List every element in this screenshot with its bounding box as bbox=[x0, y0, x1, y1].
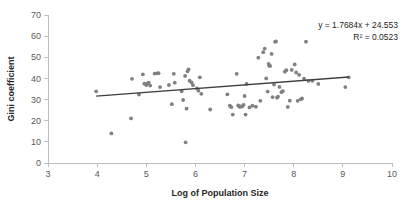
data-point bbox=[172, 72, 176, 76]
data-point bbox=[304, 40, 308, 44]
chart-canvas: 010203040506070 345678910 y = 1.7684x + … bbox=[0, 0, 410, 209]
data-point bbox=[170, 102, 174, 106]
data-point bbox=[191, 83, 195, 87]
data-point bbox=[290, 68, 294, 72]
x-tick-label: 9 bbox=[340, 169, 345, 179]
data-point bbox=[94, 89, 98, 93]
data-point bbox=[196, 89, 200, 93]
data-point bbox=[251, 104, 255, 108]
y-tick-label: 40 bbox=[31, 74, 41, 84]
x-tick-label: 6 bbox=[193, 169, 198, 179]
data-point bbox=[281, 89, 285, 93]
data-point bbox=[208, 108, 212, 112]
data-point bbox=[129, 116, 133, 120]
data-point bbox=[242, 103, 246, 107]
y-tick-label: 10 bbox=[31, 137, 41, 147]
trendline bbox=[96, 77, 349, 96]
data-point bbox=[261, 50, 265, 54]
data-point bbox=[181, 98, 185, 102]
data-point bbox=[297, 73, 301, 77]
data-point bbox=[225, 92, 229, 96]
data-point bbox=[229, 105, 233, 109]
data-point bbox=[158, 85, 162, 89]
data-point bbox=[198, 75, 202, 79]
data-point bbox=[268, 64, 272, 68]
data-point bbox=[278, 85, 282, 89]
data-point bbox=[343, 85, 347, 89]
data-point bbox=[184, 140, 188, 144]
data-point bbox=[266, 90, 270, 94]
data-point bbox=[235, 72, 239, 76]
data-point bbox=[258, 99, 262, 103]
data-point bbox=[270, 52, 274, 56]
y-tick-label: 20 bbox=[31, 116, 41, 126]
data-point bbox=[244, 113, 248, 117]
x-tick-label: 5 bbox=[144, 169, 149, 179]
data-point bbox=[130, 77, 134, 81]
data-point bbox=[293, 63, 297, 67]
data-point bbox=[294, 71, 298, 75]
y-axis-ticks bbox=[44, 15, 48, 163]
data-point bbox=[316, 82, 320, 86]
data-point bbox=[286, 105, 290, 109]
y-axis-title: Gini coefficient bbox=[6, 56, 16, 121]
scatter-chart: 010203040506070 345678910 y = 1.7684x + … bbox=[0, 0, 410, 209]
data-point bbox=[300, 97, 304, 101]
x-axis-group: 345678910 bbox=[45, 163, 397, 179]
y-tick-label: 60 bbox=[31, 31, 41, 41]
x-tick-label: 10 bbox=[387, 169, 397, 179]
data-point bbox=[284, 68, 288, 72]
data-point bbox=[271, 95, 275, 99]
y-tick-label: 70 bbox=[31, 10, 41, 20]
data-point bbox=[141, 73, 145, 77]
data-point bbox=[187, 67, 191, 71]
data-point bbox=[274, 40, 278, 44]
data-points-group bbox=[94, 40, 350, 145]
data-point bbox=[183, 74, 187, 78]
r-squared-label: R² = 0.0523 bbox=[353, 32, 398, 42]
y-tick-label: 30 bbox=[31, 95, 41, 105]
data-point bbox=[288, 99, 292, 103]
x-tick-label: 7 bbox=[242, 169, 247, 179]
data-point bbox=[157, 71, 161, 75]
x-tick-label: 4 bbox=[95, 169, 100, 179]
data-point bbox=[264, 77, 268, 81]
data-point bbox=[109, 132, 113, 136]
data-point bbox=[243, 94, 247, 98]
x-axis-title: Log of Population Size bbox=[172, 188, 269, 198]
data-point bbox=[256, 56, 260, 60]
data-point bbox=[276, 95, 280, 99]
data-point bbox=[148, 84, 152, 88]
data-point bbox=[185, 107, 189, 111]
y-axis-group: 010203040506070 bbox=[31, 10, 48, 168]
y-axis-tick-labels: 010203040506070 bbox=[31, 10, 41, 168]
data-point bbox=[199, 92, 203, 96]
regression-equation-label: y = 1.7684x + 24.553 bbox=[318, 20, 398, 30]
y-tick-label: 50 bbox=[31, 52, 41, 62]
data-point bbox=[231, 113, 235, 117]
x-axis-tick-labels: 345678910 bbox=[45, 169, 397, 179]
data-point bbox=[173, 81, 177, 85]
data-point bbox=[263, 47, 267, 51]
y-tick-label: 0 bbox=[36, 158, 41, 168]
x-axis-ticks bbox=[48, 163, 392, 167]
data-point bbox=[254, 105, 258, 109]
data-point bbox=[167, 83, 171, 87]
x-tick-label: 3 bbox=[45, 169, 50, 179]
x-tick-label: 8 bbox=[291, 169, 296, 179]
